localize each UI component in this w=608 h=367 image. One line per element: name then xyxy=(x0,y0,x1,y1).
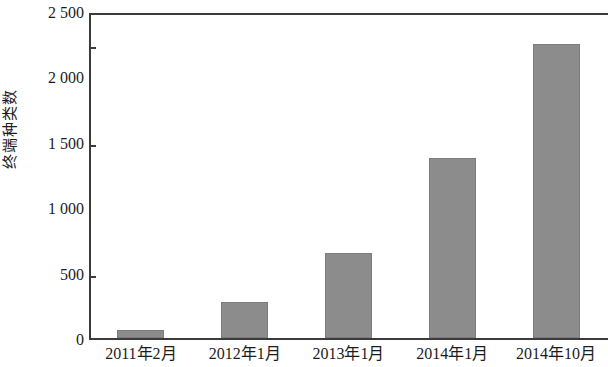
bar xyxy=(325,253,372,338)
bar xyxy=(221,302,268,338)
y-axis-tick-mark xyxy=(90,145,96,147)
plot-frame xyxy=(89,13,608,340)
x-axis-tick-label: 2014年10月 xyxy=(504,343,608,365)
x-axis-tick-label: 2011年2月 xyxy=(89,343,193,365)
y-axis-tick-label: 0 xyxy=(0,332,84,348)
x-axis-tick-labels: 2011年2月2012年1月2013年1月2014年1月2014年10月 xyxy=(89,343,608,367)
y-axis-tick-label: 2 000 xyxy=(0,70,84,86)
bar xyxy=(429,158,476,339)
x-axis-tick-label: 2013年1月 xyxy=(297,343,401,365)
y-axis-tick-label: 500 xyxy=(0,267,84,283)
x-axis-tick-label: 2014年1月 xyxy=(400,343,504,365)
x-axis-tick-label: 2012年1月 xyxy=(193,343,297,365)
bar xyxy=(533,44,580,338)
bar xyxy=(117,330,164,338)
plot-area xyxy=(91,15,608,338)
y-axis-tick-label: 1 500 xyxy=(0,136,84,152)
y-axis-tick-mark xyxy=(90,47,96,49)
y-axis-tick-labels: 05001 0001 5002 0002 500 xyxy=(0,0,84,367)
bar-chart: 终端种类数 05001 0001 5002 0002 500 2011年2月20… xyxy=(0,0,608,367)
y-axis-tick-mark xyxy=(90,276,96,278)
y-axis-tick-label: 1 000 xyxy=(0,201,84,217)
y-axis-tick-label: 2 500 xyxy=(0,5,84,21)
